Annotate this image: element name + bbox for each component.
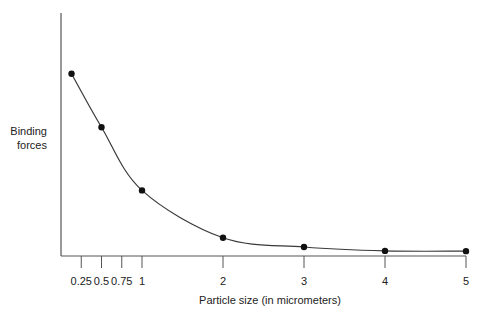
x-tick-label: 0.25 (71, 275, 92, 287)
data-point-marker (98, 124, 104, 130)
y-axis-label-line2: forces (17, 139, 47, 151)
x-tick-label: 5 (463, 275, 469, 287)
data-point-marker (301, 244, 307, 250)
x-tick-label: 0.75 (111, 275, 132, 287)
x-tick-label: 3 (301, 275, 307, 287)
plot-area (68, 71, 469, 255)
y-axis-label-line1: Binding (10, 125, 47, 137)
data-point-marker (139, 187, 145, 193)
x-axis-label: Particle size (in micrometers) (199, 294, 341, 306)
binding-force-chart: 0.250.50.7512345 Binding forces Particle… (0, 0, 482, 315)
x-tick-label: 1 (139, 275, 145, 287)
data-point-marker (382, 248, 388, 254)
data-point-marker (463, 248, 469, 254)
data-point-marker (220, 235, 226, 241)
x-tick-label: 2 (220, 275, 226, 287)
x-tick-label: 0.5 (94, 275, 109, 287)
x-axis-ticks: 0.250.50.7512345 (71, 256, 470, 287)
binding-force-curve (72, 74, 466, 252)
data-point-marker (68, 71, 74, 77)
x-tick-label: 4 (382, 275, 388, 287)
